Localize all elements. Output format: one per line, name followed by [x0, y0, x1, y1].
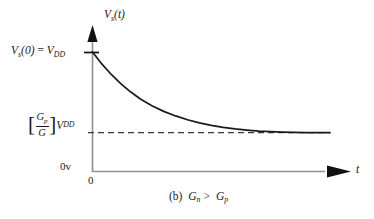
bracket-close: ] [49, 114, 56, 135]
x-axis-arrowhead [327, 165, 351, 177]
bracket-open: [ [28, 114, 35, 135]
y-axis-title: Vs(t) [104, 9, 125, 23]
fraction-denominator: G [37, 127, 47, 139]
initial-lhs-main: V [11, 44, 18, 56]
asymptote-rhs-subscript: DD [63, 121, 74, 129]
y-axis-title-argument: (t) [114, 8, 125, 20]
fraction-numerator-subscript: p [44, 117, 48, 125]
zero-volt-label: 0v [60, 161, 71, 172]
initial-rhs-subscript: DD [54, 50, 65, 59]
origin-label: 0 [88, 175, 94, 186]
caption-rhs-subscript: p [224, 195, 228, 204]
initial-lhs-argument: (0) [21, 44, 34, 56]
caption-lhs-main: G [188, 190, 196, 202]
figure-caption: (b) Gn> Gp [169, 191, 231, 203]
x-axis-label: t [356, 164, 359, 176]
caption-index: (b) [169, 190, 182, 202]
asymptote-value-label: [ Gp G ]VDD [28, 112, 74, 139]
y-axis-arrowhead [87, 25, 97, 42]
initial-rhs-main: V [47, 44, 54, 56]
fraction-numerator: Gp [36, 112, 49, 126]
initial-value-label: Vs(0) = VDD [11, 45, 65, 59]
caption-rhs-main: G [216, 190, 224, 202]
figure-exponential-decay: Vs(t) Vs(0) = VDD [ Gp G ]VDD 0v 0 t (b)… [0, 0, 374, 219]
caption-lhs-subscript: n [197, 195, 201, 204]
fraction-gp-over-g: Gp G [36, 112, 49, 139]
plot-canvas [0, 0, 374, 219]
caption-rhs: Gp [216, 190, 228, 202]
y-axis-title-main: V [104, 8, 111, 20]
initial-equals-sign: = [37, 44, 44, 56]
caption-relation: > [204, 190, 211, 202]
fraction-numerator-main: G [37, 111, 45, 122]
caption-lhs: Gn [188, 190, 200, 202]
decay-curve [93, 52, 331, 133]
